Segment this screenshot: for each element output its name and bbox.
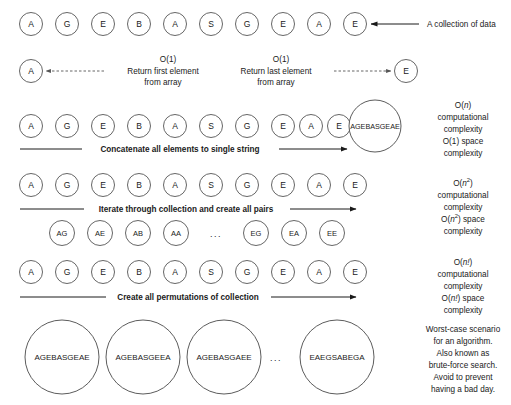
node-label: E <box>280 121 286 131</box>
pairs-source-node: E <box>344 174 367 197</box>
node-label: G <box>64 267 71 277</box>
node-label: A <box>28 180 34 190</box>
pair-node: AB <box>126 221 151 246</box>
collection-node: A <box>20 13 43 36</box>
pair-node: AG <box>50 221 75 246</box>
concat-complexity-line1: O(n) <box>455 101 472 110</box>
perm-complexity-line4: O(n!) space <box>442 294 485 303</box>
node-label: A <box>172 267 178 277</box>
node-label: A <box>308 121 314 131</box>
collection-row: A G E B A S G E <box>20 13 497 36</box>
node-label: A <box>28 121 34 131</box>
collection-caption: A collection of data <box>427 20 496 29</box>
node-label: G <box>244 180 251 190</box>
concat-result-node: AGEBASGEAE <box>349 100 401 152</box>
pair-node: AE <box>88 221 113 246</box>
perm-source-node: S <box>200 261 223 284</box>
node-label: A <box>172 180 178 190</box>
node-label: S <box>208 267 214 277</box>
last-description-line1: Return last element <box>241 67 313 76</box>
concat-node: E <box>328 115 351 138</box>
concat-node: S <box>200 115 223 138</box>
perm-complexity-line5: complexity <box>444 306 484 315</box>
perm-complexity: O(n!) computational complexity O(n!) spa… <box>438 258 489 315</box>
node-label: E <box>100 180 106 190</box>
permutation-result-node-last: EAEGSABEGA <box>300 320 374 394</box>
perm-source-node: A <box>164 261 187 284</box>
result-string: AGEBASGEAE <box>350 122 400 131</box>
node-label: E <box>100 19 106 29</box>
collection-node: G <box>56 13 79 36</box>
pairs-complexity: O(n2) computational complexity O(n2) spa… <box>438 177 489 236</box>
complexity-diagram: A G E B A S G E <box>0 0 511 405</box>
node-label: A <box>316 267 322 277</box>
collection-node: E <box>92 13 115 36</box>
concat-node: G <box>236 115 259 138</box>
concat-node: G <box>56 115 79 138</box>
node-label: E <box>280 180 286 190</box>
pairs-source-node: S <box>200 174 223 197</box>
note-line-2: for an algorithm. <box>433 337 492 346</box>
concat-row: A G E B A S G E <box>20 100 489 158</box>
node-label: G <box>244 267 251 277</box>
node-label: G <box>244 19 251 29</box>
pairs-arrow-label: Iterate through collection and create al… <box>99 205 274 214</box>
node-label: S <box>208 121 214 131</box>
perm-source-node: E <box>272 261 295 284</box>
first-element-node: A <box>20 60 43 83</box>
node-label: AA <box>171 229 181 238</box>
concat-complexity: O(n) computational complexity O(1) space… <box>438 101 489 158</box>
perm-source-node: G <box>56 261 79 284</box>
perm-source-node: B <box>128 261 151 284</box>
collection-node: G <box>236 13 259 36</box>
concat-node: E <box>92 115 115 138</box>
node-label: B <box>136 121 142 131</box>
last-description-line2: from array <box>257 78 295 87</box>
node-label: G <box>64 19 71 29</box>
perm-source-node: E <box>92 261 115 284</box>
perm-source-node: A <box>308 261 331 284</box>
results-ellipsis: ... <box>270 353 282 363</box>
pairs-complexity-line1: O(n2) <box>453 177 473 188</box>
node-label: E <box>336 121 342 131</box>
pairs-ellipsis: ... <box>210 229 222 239</box>
concat-complexity-line5: complexity <box>444 149 484 158</box>
node-label: A <box>28 19 34 29</box>
pairs-source-node: G <box>56 174 79 197</box>
node-label: E <box>280 19 286 29</box>
note-line-1: Worst-case scenario <box>426 325 501 334</box>
perm-arrow-label: Create all permutations of collection <box>117 293 259 302</box>
node-label: G <box>64 180 71 190</box>
node-label: G <box>244 121 251 131</box>
collection-node: E <box>272 13 295 36</box>
node-label: A <box>172 19 178 29</box>
permutation-result-node: AGEBASGEAE <box>25 320 99 394</box>
concat-complexity-line4: O(1) space <box>443 137 484 146</box>
concat-node: A <box>164 115 187 138</box>
pair-node: AA <box>164 221 189 246</box>
node-label: E <box>403 66 409 76</box>
collection-node: S <box>200 13 223 36</box>
node-label: B <box>136 19 142 29</box>
pairs-row: A G E B A S G E <box>20 174 489 246</box>
perm-complexity-line3: complexity <box>444 282 484 291</box>
pair-node: EA <box>282 221 307 246</box>
node-label: E <box>352 19 358 29</box>
pairs-complexity-line2: computational <box>438 191 489 200</box>
result-string: AGEBASGEAE <box>34 353 89 362</box>
concat-node: B <box>128 115 151 138</box>
result-string: AGEBASGAEE <box>196 353 251 362</box>
pairs-source-node: E <box>272 174 295 197</box>
node-label: B <box>136 180 142 190</box>
perm-source-node: A <box>20 261 43 284</box>
note-line-3: Also known as <box>437 349 490 358</box>
collection-node: A <box>308 13 331 36</box>
collection-node: B <box>128 13 151 36</box>
node-label: S <box>208 19 214 29</box>
pair-node: EE <box>320 221 345 246</box>
first-description-line1: Return first element <box>127 67 199 76</box>
pairs-source-node: E <box>92 174 115 197</box>
note-line-6: having a bad day. <box>431 385 495 394</box>
pairs-source-node: B <box>128 174 151 197</box>
last-element-node: E <box>395 60 418 83</box>
